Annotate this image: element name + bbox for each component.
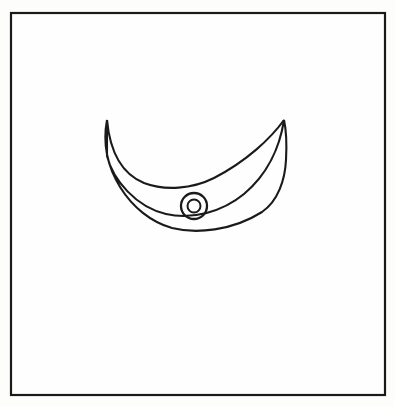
drawing-canvas	[0, 0, 395, 407]
inner-ring-circle	[188, 200, 201, 213]
line-drawing-figure	[0, 0, 395, 407]
